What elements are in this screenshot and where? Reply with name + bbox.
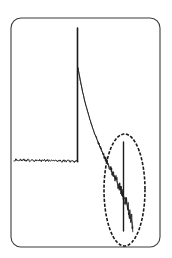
- signal-trace-chart: [0, 0, 172, 258]
- plot-frame: [11, 18, 160, 247]
- figure-root: [0, 0, 172, 258]
